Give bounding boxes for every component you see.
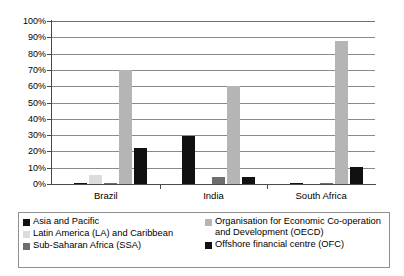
y-axis-tick-70: 70% — [0, 65, 46, 74]
gridline — [52, 86, 375, 87]
y-tick-mark — [47, 119, 52, 120]
y-tick-mark — [47, 54, 52, 55]
y-tick-mark — [47, 37, 52, 38]
gridline — [52, 21, 375, 22]
legend-item-left-2[interactable]: Sub-Saharan Africa (SSA) — [23, 240, 205, 251]
bar-south-africa-series-3 — [335, 41, 348, 184]
legend-item-right-1[interactable]: Offshore financial centre (OFC) — [205, 239, 387, 250]
y-axis-tick-90: 90% — [0, 33, 46, 42]
bar-brazil-series-3 — [119, 70, 132, 184]
gridline — [52, 119, 375, 120]
legend-column-right: Organisation for Economic Co-operation a… — [205, 216, 387, 251]
legend-swatch-icon — [23, 243, 30, 250]
x-tick-mark — [160, 184, 161, 189]
chart-legend: Asia and PacificLatin America (LA) and C… — [18, 212, 390, 268]
gridline — [52, 135, 375, 136]
y-axis-tick-10: 10% — [0, 163, 46, 172]
y-axis-tick-100: 100% — [0, 17, 46, 26]
bar-chart: 0%10%20%30%40%50%60%70%80%90%100% Brazil… — [0, 0, 404, 276]
plot-wrapper: 0%10%20%30%40%50%60%70%80%90%100% Brazil… — [0, 0, 404, 204]
gridline — [52, 54, 375, 55]
gridline — [52, 151, 375, 152]
gridline — [52, 37, 375, 38]
y-axis-tick-60: 60% — [0, 82, 46, 91]
y-axis-tick-0: 0% — [0, 180, 46, 189]
plot-area — [52, 21, 375, 184]
y-axis-tick-80: 80% — [0, 49, 46, 58]
bar-south-africa-series-0 — [290, 183, 303, 184]
y-axis-tick-30: 30% — [0, 131, 46, 140]
gridline — [52, 168, 375, 169]
y-tick-mark — [47, 135, 52, 136]
bar-india-series-0 — [182, 136, 195, 184]
legend-label: Organisation for Economic Co-operation a… — [215, 216, 381, 238]
legend-column-left: Asia and PacificLatin America (LA) and C… — [23, 216, 205, 252]
x-axis-label-south-africa: South Africa — [267, 190, 375, 202]
y-tick-mark — [47, 103, 52, 104]
legend-label: Latin America (LA) and Caribbean — [33, 228, 173, 239]
legend-swatch-icon — [23, 231, 30, 238]
y-axis-tick-40: 40% — [0, 114, 46, 123]
y-tick-mark — [47, 70, 52, 71]
legend-item-left-1[interactable]: Latin America (LA) and Caribbean — [23, 228, 205, 239]
legend-label: Sub-Saharan Africa (SSA) — [33, 240, 141, 251]
y-tick-mark — [47, 21, 52, 22]
y-tick-mark — [47, 168, 52, 169]
bar-brazil-series-1 — [89, 175, 102, 184]
legend-swatch-icon — [205, 242, 212, 249]
legend-label: Offshore financial centre (OFC) — [215, 239, 344, 250]
legend-item-left-0[interactable]: Asia and Pacific — [23, 216, 205, 227]
y-tick-mark — [47, 184, 52, 185]
legend-item-right-0[interactable]: Organisation for Economic Co-operation a… — [205, 216, 387, 238]
bar-brazil-series-2 — [104, 183, 117, 184]
y-tick-mark — [47, 86, 52, 87]
x-tick-mark — [267, 184, 268, 189]
y-tick-mark — [47, 151, 52, 152]
x-axis-label-brazil: Brazil — [52, 190, 160, 202]
gridline — [52, 70, 375, 71]
legend-swatch-icon — [23, 219, 30, 226]
gridline — [52, 103, 375, 104]
y-axis-tick-20: 20% — [0, 147, 46, 156]
x-axis-line — [51, 184, 376, 185]
x-axis-tick-labels: BrazilIndiaSouth Africa — [52, 190, 375, 204]
legend-swatch-icon — [205, 219, 212, 226]
bar-brazil-series-4 — [134, 148, 147, 184]
y-axis-tick-50: 50% — [0, 98, 46, 107]
bar-india-series-2 — [212, 177, 225, 184]
bar-south-africa-series-4 — [350, 167, 363, 184]
bar-india-series-3 — [227, 86, 240, 184]
legend-label: Asia and Pacific — [33, 216, 99, 227]
x-axis-label-india: India — [160, 190, 268, 202]
bar-south-africa-series-2 — [320, 183, 333, 184]
y-axis-tick-labels: 0%10%20%30%40%50%60%70%80%90%100% — [0, 0, 50, 204]
bar-india-series-4 — [242, 177, 255, 184]
bar-brazil-series-0 — [74, 183, 87, 184]
